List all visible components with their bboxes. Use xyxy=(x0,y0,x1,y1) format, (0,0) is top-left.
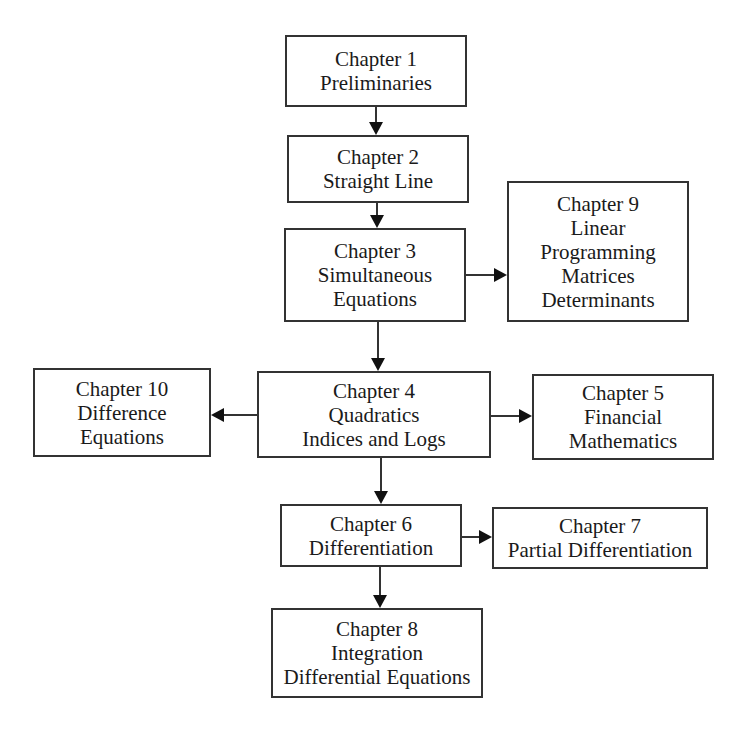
arrow-ch6-to-ch7 xyxy=(462,530,492,544)
node-label-line: Determinants xyxy=(541,288,654,312)
arrow-ch2-to-ch3 xyxy=(370,203,384,228)
node-label-line: Quadratics xyxy=(329,403,420,427)
node-ch6: Chapter 6Differentiation xyxy=(280,504,462,567)
arrow-ch1-to-ch2 xyxy=(369,107,383,135)
node-label-line: Differentiation xyxy=(309,536,433,560)
arrowhead-icon xyxy=(211,408,224,422)
node-label-line: Chapter 8 xyxy=(336,617,418,641)
node-label-line: Linear xyxy=(571,216,626,240)
node-label-line: Simultaneous xyxy=(318,263,432,287)
node-label-line: Chapter 1 xyxy=(335,47,417,71)
node-label-line: Chapter 9 xyxy=(557,192,639,216)
node-ch10: Chapter 10DifferenceEquations xyxy=(33,368,211,457)
arrowhead-icon xyxy=(479,530,492,544)
node-label-line: Programming xyxy=(540,240,656,264)
node-label-line: Chapter 5 xyxy=(582,381,664,405)
node-label-line: Chapter 4 xyxy=(333,379,415,403)
node-label-line: Straight Line xyxy=(323,169,433,193)
node-label-line: Financial xyxy=(584,405,662,429)
arrowhead-icon xyxy=(373,595,387,608)
arrowhead-icon xyxy=(369,122,383,135)
arrowhead-icon xyxy=(519,409,532,423)
node-ch9: Chapter 9LinearProgrammingMatricesDeterm… xyxy=(507,181,689,322)
node-label-line: Chapter 6 xyxy=(330,512,412,536)
node-label-line: Preliminaries xyxy=(320,71,432,95)
node-label-line: Mathematics xyxy=(569,429,677,453)
node-ch3: Chapter 3SimultaneousEquations xyxy=(284,228,466,322)
arrowhead-icon xyxy=(374,491,388,504)
node-ch4: Chapter 4QuadraticsIndices and Logs xyxy=(257,371,491,458)
arrow-ch4-to-ch10 xyxy=(211,408,257,422)
node-label-line: Integration xyxy=(331,641,423,665)
arrowhead-icon xyxy=(371,358,385,371)
arrow-ch4-to-ch5 xyxy=(491,409,532,423)
node-label-line: Partial Differentiation xyxy=(508,538,692,562)
chapter-dependency-diagram: Chapter 1PreliminariesChapter 2Straight … xyxy=(0,0,744,729)
node-label-line: Chapter 7 xyxy=(559,514,641,538)
node-label-line: Matrices xyxy=(561,264,634,288)
node-label-line: Equations xyxy=(333,287,417,311)
arrow-ch6-to-ch8 xyxy=(373,567,387,608)
node-label-line: Equations xyxy=(80,425,164,449)
node-ch5: Chapter 5FinancialMathematics xyxy=(532,374,714,460)
node-label-line: Chapter 3 xyxy=(334,239,416,263)
arrow-ch4-to-ch6 xyxy=(374,458,388,504)
node-label-line: Indices and Logs xyxy=(302,427,445,451)
arrow-ch3-to-ch9 xyxy=(466,268,507,282)
node-ch1: Chapter 1Preliminaries xyxy=(285,35,467,107)
arrowhead-icon xyxy=(494,268,507,282)
node-label-line: Differential Equations xyxy=(284,665,471,689)
node-ch7: Chapter 7Partial Differentiation xyxy=(492,507,708,569)
node-ch2: Chapter 2Straight Line xyxy=(287,135,469,203)
node-label-line: Chapter 2 xyxy=(337,145,419,169)
node-label-line: Difference xyxy=(77,401,166,425)
arrowhead-icon xyxy=(370,215,384,228)
node-label-line: Chapter 10 xyxy=(76,377,169,401)
arrow-ch3-to-ch4 xyxy=(371,322,385,371)
node-ch8: Chapter 8IntegrationDifferential Equatio… xyxy=(271,608,483,698)
